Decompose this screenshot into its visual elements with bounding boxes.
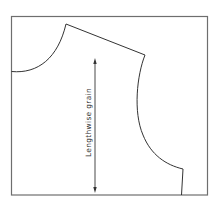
pattern-diagram: Lengthwise grain bbox=[0, 0, 220, 206]
armhole-curve bbox=[137, 55, 183, 169]
arrow-head-up-icon bbox=[93, 58, 96, 64]
grainline-arrow bbox=[93, 58, 96, 193]
side-seam-line bbox=[182, 169, 184, 195]
fabric-frame bbox=[12, 17, 208, 196]
arrow-head-down-icon bbox=[93, 187, 96, 193]
neckline-curve bbox=[12, 24, 67, 72]
grain-label: Lengthwise grain bbox=[84, 88, 93, 157]
shoulder-line bbox=[66, 24, 145, 55]
